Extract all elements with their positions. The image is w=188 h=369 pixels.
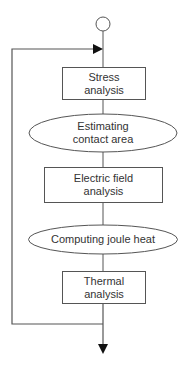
stress-analysis-label: Stress analysis	[84, 71, 124, 97]
end-arrowhead-icon	[98, 344, 108, 354]
contact-area-label-wrap: Estimating contact area	[29, 114, 177, 152]
stress-analysis-label-wrap: Stress analysis	[62, 67, 146, 100]
thermal-analysis-label: Thermal analysis	[84, 275, 124, 301]
joule-heat-label: Computing joule heat	[51, 233, 155, 246]
electric-field-label: Electric field analysis	[74, 172, 133, 198]
thermal-analysis-label-wrap: Thermal analysis	[62, 271, 146, 304]
electric-field-label-wrap: Electric field analysis	[44, 167, 163, 203]
contact-area-label: Estimating contact area	[73, 120, 134, 146]
joule-heat-label-wrap: Computing joule heat	[28, 225, 178, 254]
loop-arrowhead-icon	[93, 44, 103, 54]
start-circle	[96, 17, 110, 31]
